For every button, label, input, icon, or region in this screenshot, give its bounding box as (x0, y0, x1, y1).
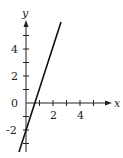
y-tick-label-0: 0 (11, 97, 18, 110)
x-axis-label: x (114, 97, 121, 110)
y-axis-arrow-icon (24, 20, 29, 27)
x-axis-arrow-icon (105, 101, 112, 106)
data-line (19, 22, 61, 152)
y-tick-label-4: 4 (11, 43, 18, 56)
x-tick-label-4: 4 (77, 109, 84, 122)
x-tick-label-2: 2 (50, 109, 57, 122)
y-axis-label: y (21, 7, 29, 20)
line-graph: y x 4 2 0 -2 2 4 (0, 0, 123, 158)
y-tick-label-neg2: -2 (6, 124, 17, 137)
y-tick-label-2: 2 (11, 70, 18, 83)
